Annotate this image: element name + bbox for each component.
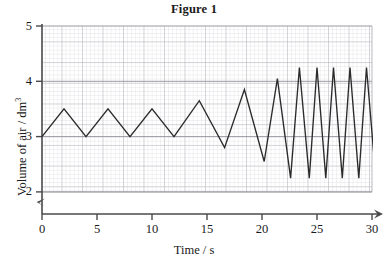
x-axis-title: Time / s [0, 243, 388, 258]
y-tick-label-4: 4 [14, 74, 32, 89]
x-tick-label-5: 5 [85, 222, 109, 237]
y-tick-label-5: 5 [14, 19, 32, 34]
y-axis-title: Volume of air / dm3 [14, 98, 30, 196]
x-tick-label-30: 30 [360, 222, 384, 237]
plot-right-mask [373, 20, 388, 198]
figure-container: Figure 1 [0, 0, 388, 263]
axis-break-marker [37, 199, 46, 207]
x-tick-label-15: 15 [195, 222, 219, 237]
x-tick-label-20: 20 [250, 222, 274, 237]
x-tick-label-10: 10 [140, 222, 164, 237]
x-axis [42, 210, 383, 221]
x-tick-label-0: 0 [30, 222, 54, 237]
grid-major [42, 26, 372, 192]
chart-plot-area [0, 0, 388, 263]
y-axis [36, 24, 42, 214]
y-axis-title-text: Volume of air / dm [15, 102, 29, 196]
x-tick-label-25: 25 [305, 222, 329, 237]
y-axis-title-exponent: 3 [14, 98, 23, 102]
